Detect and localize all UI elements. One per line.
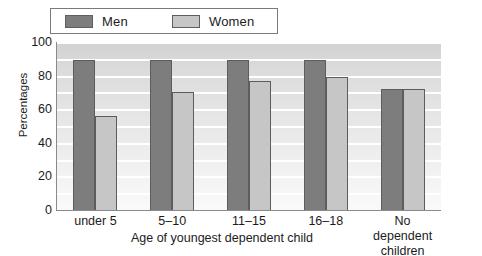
y-tick-label: 100 [18,35,52,49]
bar-women[interactable] [326,77,348,210]
bar-men[interactable] [73,60,95,210]
x-tick-label-line: 11–15 [211,214,288,229]
bar-women[interactable] [172,92,194,210]
legend-swatch-women-icon [172,15,200,28]
legend-swatch-men-icon [65,15,93,28]
legend-entry-men: Men [65,9,128,33]
bar-groups [57,42,441,210]
x-tick-label-line: 16–18 [287,214,364,229]
plot-area [57,42,441,210]
x-tick-label-line: under 5 [57,214,134,229]
legend-entry-women: Women [172,9,255,33]
x-tick-label-line: 5–10 [134,214,211,229]
x-axis-title: Age of youngest dependent child [57,231,387,245]
bar-group [287,42,364,210]
y-axis-ticks: 020406080100 [16,0,52,256]
legend-label-women: Women [209,14,255,29]
bar-women[interactable] [403,89,425,210]
bar-men[interactable] [381,89,403,210]
bar-women[interactable] [249,81,271,210]
bar-men[interactable] [227,60,249,210]
legend-label-men: Men [102,14,128,29]
y-tick-label: 0 [18,203,52,217]
bar-men[interactable] [304,60,326,210]
bar-men[interactable] [150,60,172,210]
x-tick-label-line: children [364,244,441,256]
bar-chart: Men Women Percentages 020406080100 under… [0,0,482,256]
x-axis-line [56,210,441,211]
y-tick-label: 80 [18,69,52,83]
y-tick-label: 60 [18,102,52,116]
y-tick-label: 20 [18,169,52,183]
y-tick-label: 40 [18,136,52,150]
bar-women[interactable] [95,116,117,210]
bar-group [211,42,288,210]
bar-group [57,42,134,210]
chart-legend: Men Women [50,8,278,34]
bar-group [364,42,441,210]
bar-group [134,42,211,210]
